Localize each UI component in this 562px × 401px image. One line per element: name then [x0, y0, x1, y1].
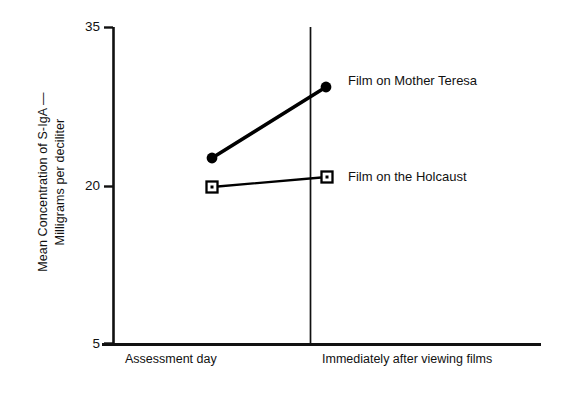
chart-figure: Mean Concentration of S-IgA — Milligrams…: [0, 0, 562, 401]
series-holocaust-marker-dot-0: [211, 186, 214, 189]
plot-area: [0, 0, 562, 401]
series-mother-teresa-point-1: [321, 82, 332, 93]
series-holocaust: [207, 172, 333, 193]
series-mother-teresa-line: [212, 87, 326, 158]
series-holocaust-marker-dot-1: [326, 176, 329, 179]
series-mother-teresa-point-0: [207, 153, 218, 164]
series-mother-teresa: [207, 82, 332, 164]
